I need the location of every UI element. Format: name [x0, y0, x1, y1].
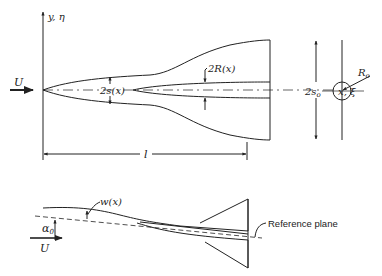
body-camber-lower: [137, 223, 248, 240]
y-axis-label: y, η: [47, 11, 65, 22]
deflection-leader: [88, 202, 100, 214]
radius-leader: [205, 68, 207, 70]
side-freestream-label: U: [40, 242, 50, 255]
side-view: [30, 199, 266, 268]
span-label: 2so: [304, 86, 321, 99]
lower-fin: [205, 240, 248, 268]
side-view-labels: w(x) α0 U Reference plane: [40, 196, 338, 255]
semispan-label: 2s(x): [99, 85, 125, 96]
reference-plane-line: [35, 216, 262, 238]
angle-label: α0: [42, 222, 54, 236]
diagram-svg: y, η x, ξ U 2s(x) 2R(x) l 2so Ro: [0, 0, 382, 276]
body-camber-upper: [43, 207, 248, 231]
reference-plane-leader: [255, 223, 266, 237]
deflection-label: w(x): [100, 196, 122, 207]
body-radius-label: 2R(x): [207, 63, 235, 74]
cross-section-labels: 2so Ro: [304, 67, 370, 99]
slender-wing-body-diagram: y, η x, ξ U 2s(x) 2R(x) l 2so Ro: [0, 0, 382, 276]
body-lower-edge: [133, 90, 270, 98]
body-upper-edge: [133, 82, 270, 90]
freestream-label: U: [14, 76, 24, 89]
reference-plane-label: Reference plane: [268, 218, 338, 229]
cross-radius-label: Ro: [357, 67, 370, 80]
planform-view: [10, 12, 335, 160]
upper-fin: [200, 199, 248, 231]
length-label: l: [144, 148, 148, 161]
